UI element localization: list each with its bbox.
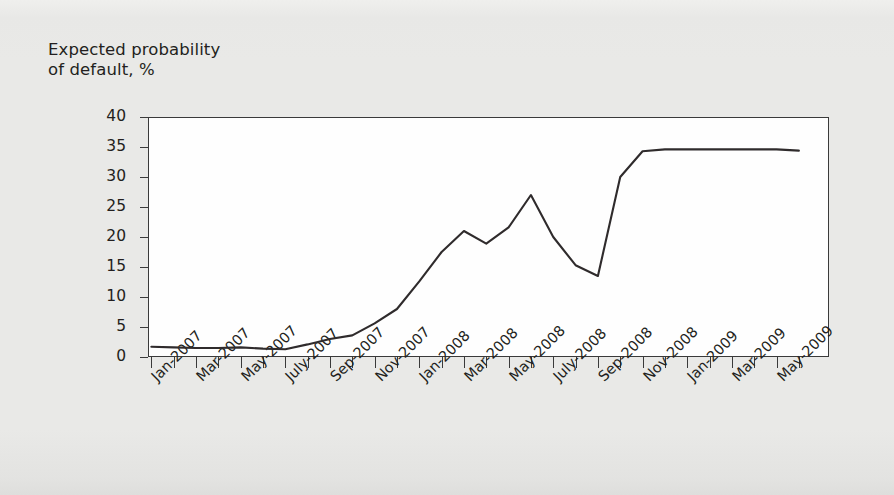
x-axis-tick xyxy=(330,357,331,368)
y-axis-tick xyxy=(140,267,148,268)
y-axis-tick-label: 5 xyxy=(92,317,126,335)
x-axis-tick xyxy=(196,357,197,368)
x-axis-tick xyxy=(151,357,152,368)
x-axis-tick xyxy=(777,357,778,368)
y-axis-tick xyxy=(140,147,148,148)
y-axis-tick-label: 35 xyxy=(92,137,126,155)
y-axis-tick xyxy=(140,327,148,328)
x-axis-tick xyxy=(643,357,644,368)
x-axis-tick xyxy=(598,357,599,368)
y-axis-tick-label: 0 xyxy=(92,347,126,365)
x-axis-tick xyxy=(375,357,376,368)
series-line xyxy=(151,149,799,349)
y-axis-tick-label: 10 xyxy=(92,287,126,305)
y-axis-title: Expected probability of default, % xyxy=(48,40,348,80)
x-axis-tick xyxy=(509,357,510,368)
y-axis-tick xyxy=(140,117,148,118)
y-axis-tick xyxy=(140,207,148,208)
chart-figure: Expected probability of default, % 05101… xyxy=(0,0,894,495)
x-axis-tick xyxy=(285,357,286,368)
y-axis-tick xyxy=(140,237,148,238)
series-line-chart xyxy=(148,117,829,357)
y-axis-tick-label: 15 xyxy=(92,257,126,275)
y-axis-tick-label: 25 xyxy=(92,197,126,215)
y-axis-tick-label: 40 xyxy=(92,107,126,125)
y-axis-tick xyxy=(140,177,148,178)
x-axis-tick xyxy=(464,357,465,368)
y-axis-tick-label: 30 xyxy=(92,167,126,185)
x-axis-tick xyxy=(553,357,554,368)
x-axis-tick xyxy=(732,357,733,368)
x-axis-tick xyxy=(687,357,688,368)
y-axis-tick xyxy=(140,297,148,298)
y-axis-tick-label: 20 xyxy=(92,227,126,245)
x-axis-tick xyxy=(241,357,242,368)
y-axis-tick xyxy=(140,357,148,358)
x-axis-tick xyxy=(419,357,420,368)
